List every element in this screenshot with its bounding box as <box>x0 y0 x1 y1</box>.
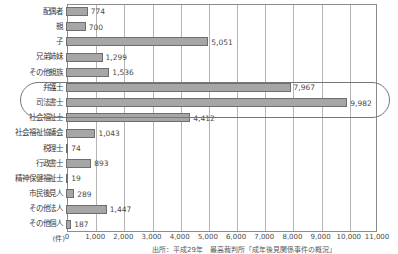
bar-zone: 1,447 <box>66 201 376 216</box>
bar-value-label: 1,043 <box>98 129 119 138</box>
bar-zone: 289 <box>66 186 376 201</box>
category-label: その他個人 <box>0 220 66 228</box>
category-label: 子 <box>0 38 66 46</box>
bar-zone: 74 <box>66 141 376 156</box>
category-label: 弁護士 <box>0 84 66 92</box>
x-tick-label: 2,000 <box>113 233 133 241</box>
x-tick-label: 10,000 <box>337 233 362 241</box>
bar-value-label: 289 <box>77 190 91 199</box>
bar <box>66 68 109 77</box>
bar-value-label: 893 <box>94 159 108 168</box>
bar <box>66 22 86 31</box>
bar-row: 弁護士7,967 <box>0 80 398 95</box>
category-label: 精神保健福祉士 <box>0 175 66 183</box>
category-label: その他親族 <box>0 69 66 77</box>
category-label: その他法人 <box>0 205 66 213</box>
bar-row: その他法人1,447 <box>0 201 398 216</box>
bar <box>66 189 74 198</box>
bar-value-label: 9,982 <box>350 99 371 108</box>
bar-row: 行政書士893 <box>0 156 398 171</box>
bar <box>66 53 103 62</box>
bar <box>66 174 68 183</box>
category-label: 司法書士 <box>0 99 66 107</box>
bar-value-label: 1,447 <box>110 205 131 214</box>
bar <box>66 205 107 214</box>
bar <box>66 144 68 153</box>
x-tick-label: 0 <box>65 233 69 241</box>
x-axis-unit-label: (件) <box>53 233 65 243</box>
bar <box>66 98 347 107</box>
bar-row: 兄弟姉妹1,299 <box>0 50 398 65</box>
bar-value-label: 187 <box>74 220 88 229</box>
bar-zone: 774 <box>66 4 376 19</box>
bar-row: その他個人187 <box>0 217 398 232</box>
category-label: 親 <box>0 23 66 31</box>
bar <box>66 7 88 16</box>
bar-zone: 9,982 <box>66 95 376 110</box>
source-note: 出所：平成29年 最高裁判所「成年後見関係事件の概況」 <box>152 244 398 254</box>
bar <box>66 113 190 122</box>
category-label: 行政書士 <box>0 160 66 168</box>
x-tick-label: 6,000 <box>226 233 246 241</box>
bar-value-label: 74 <box>71 144 81 153</box>
bar <box>66 37 208 46</box>
bar-zone: 700 <box>66 19 376 34</box>
bar-zone: 4,412 <box>66 110 376 125</box>
bar <box>66 129 95 138</box>
bar-chart: 配偶者774親700子5,051兄弟姉妹1,299その他親族1,536弁護士7,… <box>0 0 398 254</box>
x-tick-label: 9,000 <box>311 233 331 241</box>
bar-row: 市民後見人289 <box>0 186 398 201</box>
bar-value-label: 4,412 <box>193 114 214 123</box>
bar-value-label: 1,299 <box>106 53 127 62</box>
bar <box>66 83 291 92</box>
bar-row: 社会福祉協議会1,043 <box>0 126 398 141</box>
x-tick-label: 4,000 <box>170 233 190 241</box>
bar-value-label: 19 <box>71 174 81 183</box>
bar-zone: 1,536 <box>66 65 376 80</box>
category-label: 配偶者 <box>0 8 66 16</box>
x-tick-label: 1,000 <box>85 233 105 241</box>
bar-value-label: 774 <box>91 7 105 16</box>
bar-rows: 配偶者774親700子5,051兄弟姉妹1,299その他親族1,536弁護士7,… <box>0 4 398 232</box>
x-tick-label: 5,000 <box>198 233 218 241</box>
category-label: 税理士 <box>0 145 66 153</box>
category-label: 兄弟姉妹 <box>0 53 66 61</box>
bar-value-label: 7,967 <box>294 83 315 92</box>
category-label: 社会福祉士 <box>0 114 66 122</box>
bar-row: 配偶者774 <box>0 4 398 19</box>
category-label: 社会福祉協議会 <box>0 129 66 137</box>
x-tick-label: 11,000 <box>365 233 390 241</box>
bar <box>66 220 71 229</box>
bar-row: 社会福祉士4,412 <box>0 110 398 125</box>
bar-value-label: 5,051 <box>211 38 232 47</box>
bar-zone: 5,051 <box>66 34 376 49</box>
bar-zone: 1,043 <box>66 126 376 141</box>
bar-row: その他親族1,536 <box>0 65 398 80</box>
bar-zone: 1,299 <box>66 50 376 65</box>
bar-value-label: 1,536 <box>112 68 133 77</box>
bar-value-label: 700 <box>89 23 103 32</box>
bar-row: 精神保健福祉士19 <box>0 171 398 186</box>
bar <box>66 159 91 168</box>
bar-row: 税理士74 <box>0 141 398 156</box>
x-tick-label: 8,000 <box>282 233 302 241</box>
bar-row: 子5,051 <box>0 34 398 49</box>
bar-zone: 19 <box>66 171 376 186</box>
bar-zone: 7,967 <box>66 80 376 95</box>
category-label: 市民後見人 <box>0 190 66 198</box>
bar-row: 司法書士9,982 <box>0 95 398 110</box>
bar-row: 親700 <box>0 19 398 34</box>
x-tick-label: 3,000 <box>142 233 162 241</box>
bar-zone: 893 <box>66 156 376 171</box>
x-tick-label: 7,000 <box>254 233 274 241</box>
bar-zone: 187 <box>66 217 376 232</box>
